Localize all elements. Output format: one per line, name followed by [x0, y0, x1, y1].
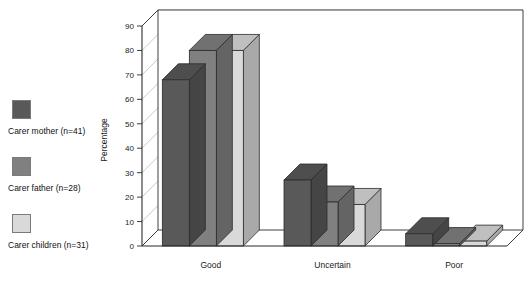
bar-uncertain-series-1 — [284, 164, 327, 246]
y-tick-label: 0 — [130, 242, 135, 251]
y-tick-label: 80 — [125, 46, 134, 55]
y-tick-label: 70 — [125, 71, 134, 80]
legend-item-carer-father: Carer father (n=28) — [8, 157, 108, 201]
y-tick-label: 90 — [125, 22, 134, 31]
y-axis-title: Percentage — [100, 118, 109, 162]
y-tick-label: 40 — [125, 144, 134, 153]
bar-chart-svg: Percentage 0102030405060708090 GoodUncer… — [100, 8, 525, 276]
legend-item-carer-children: Carer children (n=31) — [8, 214, 108, 258]
x-tick-label: Uncertain — [314, 260, 351, 270]
y-tick-label: 20 — [125, 193, 134, 202]
x-axis-labels: GoodUncertainPoor — [200, 260, 463, 270]
y-tick-label: 10 — [125, 218, 134, 227]
bar-good-series-1 — [162, 64, 205, 246]
legend-swatch-carer-mother — [12, 100, 31, 119]
chart-plot-area: Percentage 0102030405060708090 GoodUncer… — [100, 8, 525, 276]
y-tick-label: 30 — [125, 169, 134, 178]
y-tick-label: 50 — [125, 120, 134, 129]
x-tick-label: Good — [200, 260, 221, 270]
chart-figure: Carer mother (n=41) Carer father (n=28) … — [0, 0, 531, 284]
legend-item-carer-mother: Carer mother (n=41) — [8, 100, 108, 144]
legend-swatch-carer-father — [12, 157, 31, 176]
y-tick-label: 60 — [125, 95, 134, 104]
legend-swatch-carer-children — [12, 214, 31, 233]
y-axis-ticks: 0102030405060708090 — [125, 22, 142, 251]
x-tick-label: Poor — [445, 260, 463, 270]
